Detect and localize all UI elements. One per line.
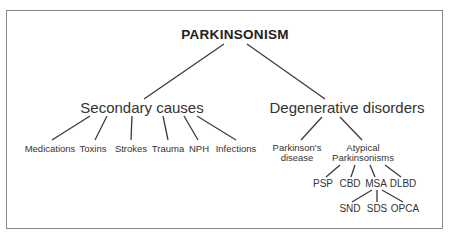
leaf-toxins: Toxins <box>80 144 107 154</box>
leaf-cbd: CBD <box>339 179 360 189</box>
leaf-medications: Medications <box>25 144 76 154</box>
node-secondary-causes: Secondary causes <box>80 100 203 115</box>
edge-msa-snd <box>352 190 372 202</box>
leaf-nph: NPH <box>189 144 209 154</box>
root-node-parkinsonism: PARKINSONISM <box>181 28 289 42</box>
leaf-trauma: Trauma <box>152 144 184 154</box>
leaf-strokes: Strokes <box>115 144 147 154</box>
node-msa: MSA <box>365 179 387 189</box>
atypical-parkinsonisms-line2: Parkinsonisms <box>332 153 394 163</box>
leaf-dlbd: DLBD <box>390 179 417 189</box>
edge-secondary-trauma <box>163 116 168 140</box>
leaf-opca: OPCA <box>391 204 419 214</box>
node-atypical-parkinsonisms: Atypical Parkinsonisms <box>332 143 394 164</box>
node-degenerative-disorders: Degenerative disorders <box>269 100 424 115</box>
edge-secondary-nph <box>184 116 198 140</box>
edge-atypical-cbd <box>351 165 355 177</box>
edge-atypical-dlbd <box>385 165 401 177</box>
edge-atypical-psp <box>326 165 340 177</box>
edge-msa-opca <box>382 190 403 202</box>
leaf-sds: SDS <box>367 204 388 214</box>
edge-secondary-toxins <box>95 116 107 140</box>
parkinsons-disease-line2: disease <box>273 153 322 163</box>
leaf-infections: Infections <box>216 144 257 154</box>
edge-secondary-infections <box>197 116 236 140</box>
edge-secondary-medications <box>52 116 90 140</box>
edge-degenerative-atypical <box>340 117 362 140</box>
edge-root-secondary <box>144 44 224 99</box>
edge-secondary-strokes <box>131 116 132 140</box>
leaf-snd: SND <box>339 204 360 214</box>
edge-root-degenerative <box>247 44 325 99</box>
edge-degenerative-parkinsons <box>301 117 322 140</box>
leaf-psp: PSP <box>313 179 333 189</box>
node-parkinsons-disease: Parkinson's disease <box>273 143 322 164</box>
edge-atypical-msa <box>370 165 375 177</box>
